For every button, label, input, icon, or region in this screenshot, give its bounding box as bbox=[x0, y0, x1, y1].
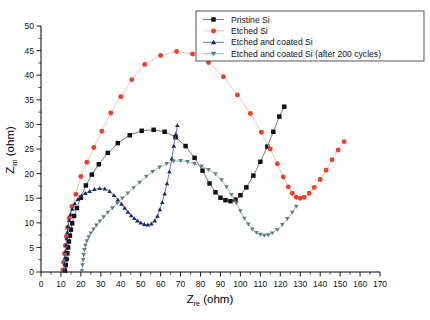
data-point bbox=[271, 130, 275, 134]
data-point bbox=[281, 175, 286, 180]
y-tick-label: 50 bbox=[25, 21, 35, 31]
data-point bbox=[312, 185, 317, 190]
x-tick-label: 30 bbox=[96, 279, 106, 289]
y-tick-label: 40 bbox=[25, 70, 35, 80]
data-point bbox=[302, 195, 307, 200]
data-point bbox=[158, 53, 163, 58]
nyquist-plot-figure: 0102030405060708090100110120130140150160… bbox=[0, 0, 430, 320]
data-point bbox=[192, 156, 196, 160]
data-point bbox=[213, 190, 217, 194]
data-point bbox=[75, 206, 79, 210]
data-point bbox=[251, 173, 255, 177]
y-tick-label: 0 bbox=[29, 267, 34, 277]
x-tick-label: 10 bbox=[56, 279, 66, 289]
data-point bbox=[118, 94, 123, 99]
data-point bbox=[142, 62, 147, 67]
data-point bbox=[221, 74, 226, 79]
legend-label: Etched and coated Si (after 200 cycles) bbox=[231, 49, 381, 59]
data-point bbox=[190, 52, 195, 57]
x-tick-label: 80 bbox=[196, 279, 206, 289]
data-point bbox=[116, 141, 120, 145]
data-point bbox=[183, 144, 187, 148]
data-point bbox=[258, 160, 262, 164]
data-point bbox=[218, 195, 222, 199]
data-point bbox=[84, 183, 88, 187]
data-point bbox=[282, 104, 286, 108]
data-point bbox=[259, 130, 264, 135]
x-tick-label: 130 bbox=[293, 279, 307, 289]
data-point bbox=[91, 145, 96, 150]
data-point bbox=[129, 77, 134, 82]
data-point bbox=[235, 92, 240, 97]
data-point bbox=[207, 181, 211, 185]
legend-marker-icon bbox=[211, 17, 215, 21]
data-point bbox=[336, 148, 341, 153]
data-point bbox=[277, 114, 281, 118]
x-tick-label: 120 bbox=[273, 279, 287, 289]
y-tick-label: 35 bbox=[25, 95, 35, 105]
y-tick-label: 5 bbox=[29, 243, 34, 253]
x-tick-label: 0 bbox=[39, 279, 44, 289]
legend-label: Etched Si bbox=[231, 26, 268, 36]
x-tick-label: 150 bbox=[333, 279, 347, 289]
x-tick-label: 160 bbox=[353, 279, 367, 289]
x-tick-label: 90 bbox=[216, 279, 226, 289]
x-axis-title-text: Zre (ohm) bbox=[187, 293, 234, 307]
data-point bbox=[324, 168, 329, 173]
y-tick-label: 10 bbox=[25, 218, 35, 228]
x-tick-label: 40 bbox=[116, 279, 126, 289]
data-point bbox=[139, 129, 143, 133]
y-tick-label: 20 bbox=[25, 169, 35, 179]
data-point bbox=[174, 49, 179, 54]
data-point bbox=[90, 172, 94, 176]
x-tick-label: 100 bbox=[233, 279, 247, 289]
data-point bbox=[228, 199, 232, 203]
legend-label: Pristine Si bbox=[231, 15, 270, 25]
data-point bbox=[286, 184, 291, 189]
data-point bbox=[290, 191, 295, 196]
y-tick-label: 25 bbox=[25, 144, 35, 154]
x-tick-label: 70 bbox=[176, 279, 186, 289]
data-point bbox=[162, 130, 166, 134]
y-tick-label: 30 bbox=[25, 120, 35, 130]
data-point bbox=[106, 151, 110, 155]
data-point bbox=[151, 128, 155, 132]
x-tick-label: 50 bbox=[136, 279, 146, 289]
data-point bbox=[318, 177, 323, 182]
data-point bbox=[307, 191, 312, 196]
impedance-chart: 0102030405060708090100110120130140150160… bbox=[0, 0, 430, 320]
x-tick-label: 110 bbox=[254, 279, 268, 289]
data-point bbox=[97, 162, 101, 166]
y-tick-label: 45 bbox=[25, 46, 35, 56]
data-point bbox=[99, 129, 104, 134]
data-point bbox=[223, 198, 227, 202]
data-point bbox=[268, 147, 273, 152]
x-axis-title: Zre (ohm) bbox=[187, 293, 234, 307]
legend-label: Etched and coated Si bbox=[231, 37, 313, 47]
data-point bbox=[238, 193, 242, 197]
data-point bbox=[73, 192, 78, 197]
data-point bbox=[127, 133, 131, 137]
legend: Pristine SiEtched SiEtched and coated Si… bbox=[196, 11, 424, 61]
data-point bbox=[275, 161, 280, 166]
data-point bbox=[84, 160, 89, 165]
legend-marker-icon bbox=[211, 28, 216, 33]
x-tick-label: 60 bbox=[156, 279, 166, 289]
data-point bbox=[78, 174, 83, 179]
data-point bbox=[108, 111, 113, 116]
y-tick-label: 15 bbox=[25, 193, 35, 203]
x-tick-label: 170 bbox=[373, 279, 387, 289]
data-point bbox=[248, 111, 253, 116]
data-point bbox=[342, 139, 347, 144]
data-point bbox=[200, 168, 204, 172]
x-tick-label: 140 bbox=[313, 279, 327, 289]
data-point bbox=[330, 157, 335, 162]
x-tick-label: 20 bbox=[76, 279, 86, 289]
data-point bbox=[244, 185, 248, 189]
